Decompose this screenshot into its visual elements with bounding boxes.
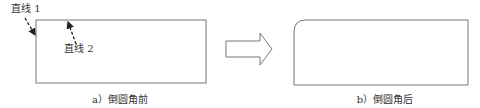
label-line1: 直线 1: [11, 3, 41, 15]
caption-after: b）倒圆角后: [357, 94, 413, 106]
caption-before: a）倒圆角前: [92, 94, 148, 106]
transition-arrow-icon: [226, 33, 272, 65]
leader-arrow-line1: [25, 18, 35, 35]
leader-arrow-line2: [68, 22, 76, 44]
rectangle-before-fillet: [36, 20, 206, 83]
label-line2: 直线 2: [64, 43, 94, 55]
rectangle-after-fillet: [294, 20, 468, 85]
